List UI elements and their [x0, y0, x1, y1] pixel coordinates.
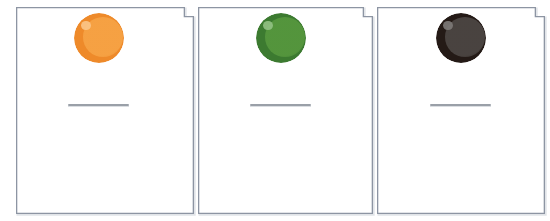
answer-line[interactable]	[68, 104, 129, 106]
ball-graphic	[256, 13, 306, 63]
green-ball	[256, 13, 306, 63]
ball-specular-highlight	[443, 21, 453, 31]
worksheet-card[interactable]	[198, 7, 373, 214]
worksheet-card[interactable]	[377, 7, 545, 214]
ball-specular-highlight	[81, 21, 91, 31]
worksheet-canvas	[0, 0, 550, 221]
ball-graphic	[436, 13, 486, 63]
answer-line[interactable]	[430, 104, 491, 106]
black-ball	[436, 13, 486, 63]
worksheet-card[interactable]	[16, 7, 194, 214]
orange-ball	[74, 13, 124, 63]
ball-graphic	[74, 13, 124, 63]
ball-specular-highlight	[263, 21, 273, 31]
answer-line[interactable]	[250, 104, 311, 106]
